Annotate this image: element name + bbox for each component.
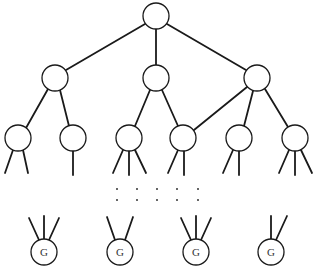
level2-node <box>170 125 196 151</box>
level1-node <box>244 65 270 91</box>
edges-level2-down <box>5 150 312 175</box>
goal-label: G <box>40 246 48 258</box>
edges-root <box>66 24 246 70</box>
root-node <box>143 3 169 29</box>
goal-label: G <box>267 246 275 258</box>
goal-label: G <box>192 246 200 258</box>
level1-node <box>143 65 169 91</box>
level2-node <box>282 125 308 151</box>
goal-node: G <box>258 239 284 265</box>
edges-into-goals <box>29 216 287 240</box>
goal-node: G <box>183 239 209 265</box>
tree-diagram: G G G G <box>0 0 316 271</box>
goal-node: G <box>107 239 133 265</box>
level1-node <box>42 65 68 91</box>
level2-node <box>116 125 142 151</box>
level2-node <box>60 125 86 151</box>
level2-node <box>226 125 252 151</box>
goal-node: G <box>31 239 57 265</box>
goal-label: G <box>116 246 124 258</box>
edges-level1 <box>26 87 288 130</box>
level2-node <box>5 125 31 151</box>
ellipsis-dots <box>116 188 199 201</box>
